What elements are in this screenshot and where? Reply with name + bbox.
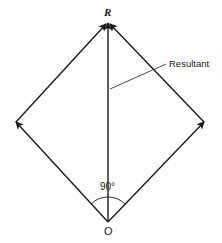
origin-label: O [104,225,113,237]
resultant-point-label: R [104,6,111,18]
vector-diagram [0,0,222,243]
resultant-label: Resultant [169,58,209,69]
left-component-vector [16,122,108,222]
resultant-leader-line [110,64,166,89]
angle-label: 90° [100,181,115,192]
right-component-vector [108,122,204,222]
right-translated-vector [110,24,204,122]
left-translated-vector [16,24,106,122]
